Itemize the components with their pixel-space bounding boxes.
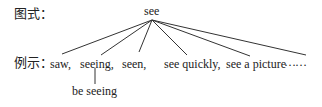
edge-see-quickly	[152, 20, 187, 55]
root-node: see	[144, 4, 159, 18]
node-seen: seen,	[122, 57, 146, 71]
node-saw: saw,	[50, 57, 71, 71]
example-label: 例示：	[14, 56, 53, 70]
edge-see-a-picture	[152, 20, 250, 56]
node-see-quickly: see quickly,	[164, 57, 221, 71]
pattern-label: 图式：	[14, 7, 53, 21]
node-seeing: seeing,	[80, 57, 114, 71]
node-ellipsis: ……	[284, 55, 306, 69]
node-see-a-picture: see a picture	[226, 57, 286, 71]
node-be-seeing: be seeing	[72, 84, 117, 98]
edge-seeing	[101, 20, 152, 55]
edge-ellipsis	[152, 20, 306, 55]
edge-saw	[62, 20, 152, 54]
